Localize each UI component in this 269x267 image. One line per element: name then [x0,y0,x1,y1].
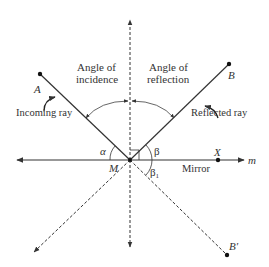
beta-label: β [154,145,160,157]
alpha-angle-arc [110,146,115,160]
point-B-label: B [228,69,235,81]
line-m-label: m [248,154,256,166]
incidence-angle-arc [86,101,128,118]
reflection-diagram: Angle of incidence Angle of reflection I… [0,0,269,267]
point-B-prime-dot [225,253,229,257]
beta1-label: β1 [150,166,160,180]
point-M-dot [128,158,132,162]
reflection-angle-arc [132,101,174,118]
mirror-label: Mirror [182,163,210,174]
angle-reflection-label-2: reflection [147,73,190,85]
angle-reflection-label-1: Angle of [149,61,188,73]
point-A-dot [38,72,42,76]
angle-incidence-label-2: incidence [76,73,118,85]
point-M-label: M [108,162,119,174]
beta-angle-arc [146,145,152,160]
virtual-ray [130,160,227,255]
reflected-ray-label: Reflected ray [191,107,248,118]
point-B-prime-label: B′ [229,240,239,252]
angle-incidence-label-1: Angle of [77,61,116,73]
incoming-ray-label: Incoming ray [16,107,73,118]
point-X-label: X [213,146,222,158]
point-B-dot [227,62,231,66]
alpha-label: α [100,145,106,157]
point-A-label: A [33,83,41,95]
point-X-dot [216,158,220,162]
